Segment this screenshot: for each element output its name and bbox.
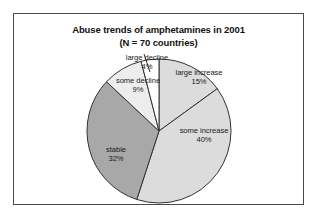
pie-label-stable-value: 32% — [86, 154, 146, 163]
pie-label-large-increase-value: 15% — [161, 77, 237, 86]
pie-label-large-increase: large increase 15% — [161, 68, 237, 87]
pie-label-stable: stable 32% — [86, 145, 146, 164]
pie-svg — [14, 14, 305, 206]
pie-label-large-increase-text: large increase — [176, 68, 223, 77]
pie-label-some-decline-text: some decline — [116, 76, 160, 85]
pie-label-large-decline-text: large decline — [126, 53, 168, 62]
pie-label-some-increase-value: 40% — [164, 135, 244, 144]
pie-label-some-increase: some increase 40% — [164, 126, 244, 145]
chart-frame: Abuse trends of amphetamines in 2001 (N … — [13, 13, 304, 205]
pie-label-some-decline-value: 9% — [101, 85, 175, 94]
pie-chart: large decline 4% some decline 9% large i… — [14, 14, 305, 206]
pie-label-stable-text: stable — [106, 145, 126, 154]
pie-label-some-increase-text: some increase — [180, 126, 229, 135]
